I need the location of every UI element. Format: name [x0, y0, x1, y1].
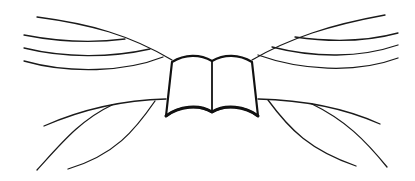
wing-line [272, 45, 398, 55]
wing-line [258, 55, 398, 68]
wing-line [24, 57, 163, 70]
wing-line [24, 48, 150, 56]
upper-right-wing [252, 15, 398, 68]
wing-line [24, 35, 125, 41]
wing-line [44, 99, 166, 126]
upper-left-wing [24, 17, 172, 70]
lower-left-wing [37, 99, 166, 170]
open-book-icon [166, 56, 258, 116]
wing-line [312, 104, 387, 167]
lower-right-wing [258, 99, 387, 167]
wing-line [68, 101, 155, 169]
wing-line [268, 100, 356, 166]
open-book-illustration [0, 0, 415, 181]
